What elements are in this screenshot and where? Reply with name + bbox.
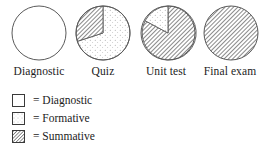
dotted-swatch xyxy=(12,112,25,125)
pie-chart-unit-test xyxy=(137,4,199,64)
pie-chart-quiz xyxy=(72,4,134,64)
hatched-swatch-fill xyxy=(13,131,24,142)
pie-label-unit-test: Unit test xyxy=(133,64,199,79)
pie-chart-final-exam xyxy=(200,4,262,64)
pie-final-exam-svg xyxy=(202,4,260,62)
pie-diagnostic-svg xyxy=(10,4,68,62)
pie-quiz-svg xyxy=(74,4,132,62)
pie-chart-row xyxy=(0,4,267,64)
blank-swatch xyxy=(12,94,25,107)
legend-label-diagnostic: = Diagnostic xyxy=(33,93,92,108)
legend-item-diagnostic: = Diagnostic xyxy=(12,92,212,109)
legend-item-formative: = Formative xyxy=(12,110,212,127)
legend-label-formative: = Formative xyxy=(33,111,90,126)
slice-diagnostic xyxy=(12,6,66,60)
legend: = Diagnostic = Formative = Summative xyxy=(12,92,212,146)
hatched-swatch xyxy=(12,130,25,143)
legend-item-summative: = Summative xyxy=(12,128,212,145)
pie-label-row: Diagnostic Quiz Unit test Final exam xyxy=(0,64,267,82)
pie-label-quiz: Quiz xyxy=(70,64,136,79)
assessment-pie-figure: Diagnostic Quiz Unit test Final exam = D… xyxy=(0,0,267,149)
pie-label-diagnostic: Diagnostic xyxy=(4,64,74,79)
dotted-swatch-fill xyxy=(13,113,24,124)
legend-label-summative: = Summative xyxy=(33,129,95,144)
pie-chart-diagnostic xyxy=(8,4,70,64)
pie-label-final-exam: Final exam xyxy=(196,64,264,79)
slice-summative xyxy=(204,6,258,60)
pie-unit-test-svg xyxy=(139,4,197,62)
